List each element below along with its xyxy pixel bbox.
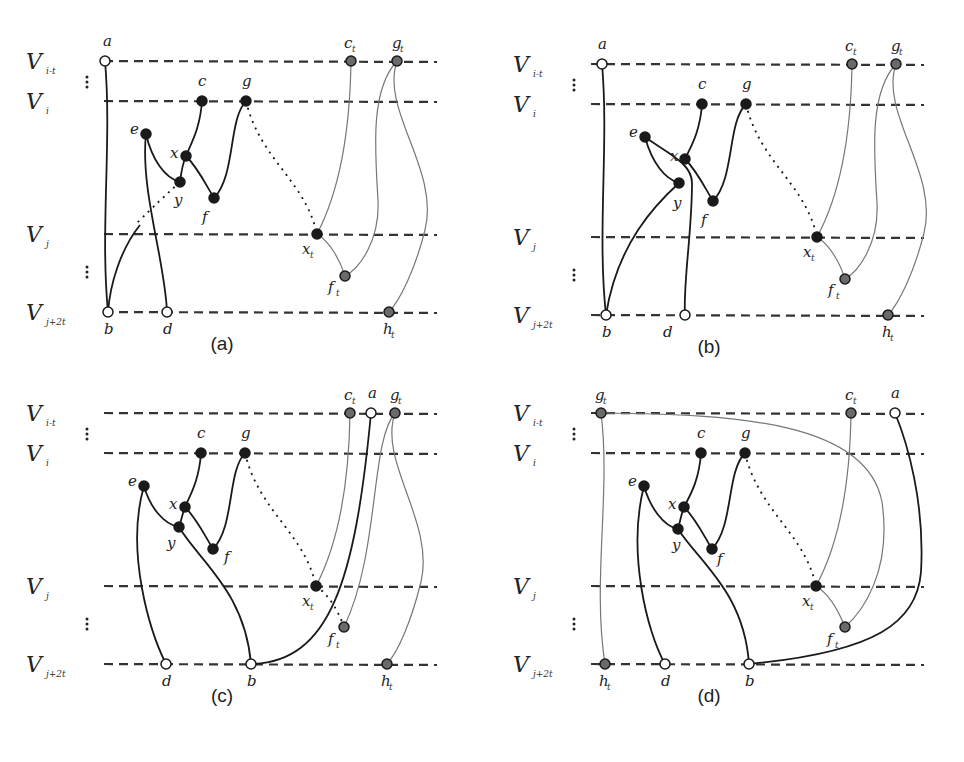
node-b bbox=[744, 659, 754, 669]
node-b bbox=[601, 310, 611, 320]
layer-subscript: j bbox=[531, 591, 536, 601]
node-label: b bbox=[104, 320, 114, 338]
node-y bbox=[174, 522, 184, 532]
layer-subscript: j+2t bbox=[44, 317, 66, 327]
node-a bbox=[890, 408, 900, 418]
node-label-subscript: t bbox=[835, 640, 839, 650]
node-label: f bbox=[716, 550, 725, 568]
node-label: d bbox=[163, 320, 173, 338]
node-d bbox=[162, 307, 172, 317]
node-g bbox=[740, 448, 750, 458]
graph-edge bbox=[316, 586, 344, 627]
layer-label-Vj: V bbox=[513, 574, 531, 599]
graph-edge bbox=[817, 64, 852, 237]
node-label: g bbox=[741, 424, 751, 442]
graph-edge bbox=[389, 61, 427, 312]
graph-edge bbox=[213, 453, 245, 549]
node-label: g bbox=[242, 72, 252, 90]
node-label-subscript: t bbox=[603, 396, 607, 406]
layer-subscript: i-t bbox=[533, 69, 543, 79]
node-label: d bbox=[661, 672, 671, 690]
caption-c: (c) bbox=[211, 685, 233, 706]
node-label-subscript: t bbox=[352, 396, 356, 406]
ellipsis-dots-icon bbox=[573, 428, 576, 431]
node-f bbox=[707, 544, 717, 554]
node-x bbox=[679, 502, 689, 512]
node-label: f bbox=[327, 630, 336, 648]
ellipsis-dots-icon bbox=[86, 618, 89, 621]
graph-edge bbox=[345, 61, 397, 276]
graph-edge bbox=[888, 64, 926, 315]
node-label-subscript: t bbox=[310, 250, 314, 260]
layer-label-Vj+2t: V bbox=[513, 652, 531, 677]
panel-c: Vi-tViVjVj+2tctagtcgexyfxtftdbht(c) bbox=[26, 384, 437, 706]
node-g bbox=[240, 448, 250, 458]
layer-line-Vi bbox=[104, 101, 437, 102]
node-ft bbox=[840, 274, 850, 284]
caption-d: (d) bbox=[697, 685, 720, 706]
node-label: g bbox=[241, 424, 251, 442]
node-ht bbox=[883, 310, 893, 320]
node-label: c bbox=[197, 424, 206, 442]
node-label: a bbox=[598, 35, 607, 53]
layer-line-Vj bbox=[104, 586, 437, 587]
node-label: f bbox=[826, 630, 835, 648]
ellipsis-dots-icon bbox=[86, 81, 89, 84]
graph-edge bbox=[137, 486, 166, 664]
node-y bbox=[673, 524, 683, 534]
node-e bbox=[640, 132, 650, 142]
node-label: e bbox=[628, 472, 637, 490]
node-label: b bbox=[247, 672, 257, 690]
caption-b: (b) bbox=[697, 336, 720, 357]
layer-label-Vj: V bbox=[26, 574, 44, 599]
layer-label-Vi-t: V bbox=[513, 52, 531, 77]
node-c bbox=[697, 99, 707, 109]
graph-edge bbox=[246, 101, 317, 234]
node-label-subscript: t bbox=[836, 291, 840, 301]
node-ft bbox=[339, 622, 349, 632]
graph-edge bbox=[186, 156, 214, 198]
node-label: c bbox=[697, 424, 706, 442]
ellipsis-dots-icon bbox=[86, 276, 89, 279]
node-d bbox=[660, 659, 670, 669]
node-label: x bbox=[668, 495, 677, 513]
panel-d: Vi-tViVjVj+2tgtctacgexyfxtfthtdb(d) bbox=[513, 384, 924, 706]
node-gt bbox=[392, 56, 402, 66]
layer-line-Vi bbox=[591, 453, 924, 454]
node-f bbox=[209, 193, 219, 203]
layer-subscript: i-t bbox=[46, 418, 56, 428]
node-label-subscript: t bbox=[336, 640, 340, 650]
ellipsis-dots-icon bbox=[573, 618, 576, 621]
node-ht bbox=[600, 659, 610, 669]
layer-label-Vj: V bbox=[26, 222, 44, 247]
layer-label-Vi-t: V bbox=[26, 49, 44, 74]
ellipsis-dots-icon bbox=[573, 269, 576, 272]
node-c bbox=[197, 96, 207, 106]
node-c bbox=[696, 448, 706, 458]
node-gt bbox=[891, 59, 901, 69]
graph-edge bbox=[245, 453, 316, 586]
graph-edge bbox=[317, 61, 351, 234]
node-label-subscript: t bbox=[352, 44, 356, 54]
node-ct bbox=[345, 408, 355, 418]
node-label: b bbox=[745, 672, 755, 690]
node-label: x bbox=[170, 144, 179, 162]
node-label-subscript: t bbox=[853, 47, 857, 57]
graph-edge bbox=[316, 413, 350, 586]
ellipsis-dots-icon bbox=[573, 433, 576, 436]
graph-edge bbox=[606, 183, 679, 315]
layer-subscript: j+2t bbox=[44, 669, 66, 679]
graph-edge bbox=[602, 64, 606, 315]
node-b bbox=[103, 307, 113, 317]
node-xt bbox=[811, 581, 821, 591]
graph-edge bbox=[816, 586, 845, 627]
node-label: x bbox=[670, 147, 679, 165]
node-ft bbox=[340, 271, 350, 281]
node-label: a bbox=[103, 32, 112, 50]
graph-edge bbox=[387, 413, 423, 664]
ellipsis-dots-icon bbox=[573, 628, 576, 631]
ellipsis-dots-icon bbox=[86, 86, 89, 89]
panel-b: Vi-tViVjVj+2tacgexyfxtctgtftbdht(b) bbox=[513, 35, 926, 357]
node-e bbox=[141, 129, 151, 139]
layer-line-Vi bbox=[104, 453, 437, 454]
